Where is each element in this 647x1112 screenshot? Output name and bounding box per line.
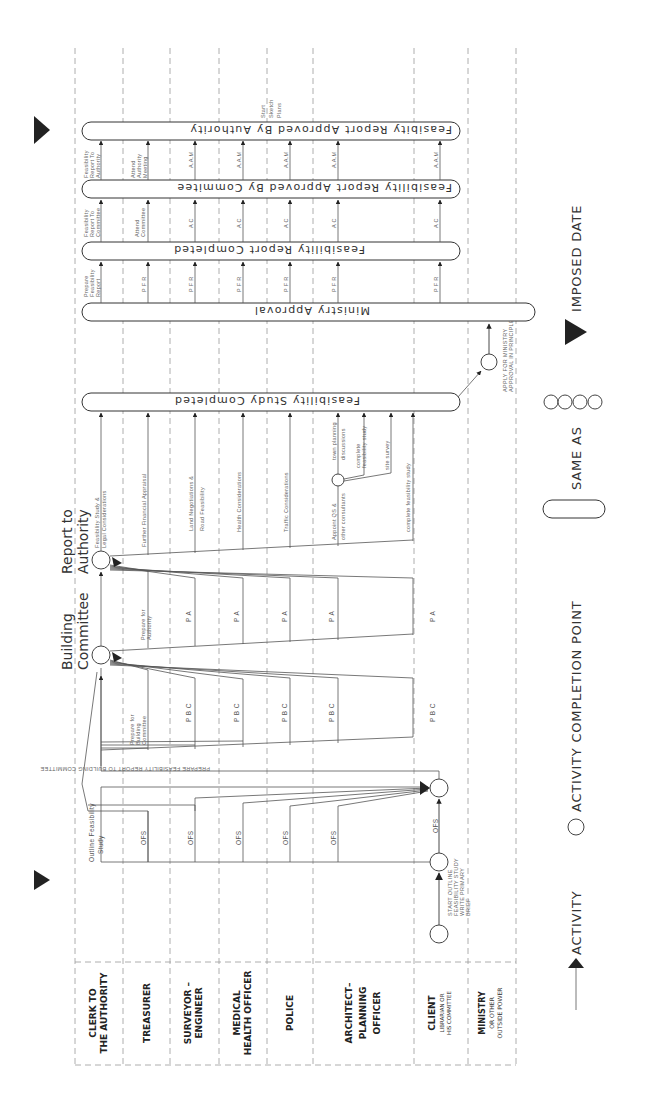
legend: ACTIVITY ACTIVITY COMPLETION POINT SAME … bbox=[543, 205, 605, 1010]
svg-text:Appoint QS &: Appoint QS & bbox=[331, 503, 337, 540]
svg-text:MINISTRY: MINISTRY bbox=[478, 991, 487, 1035]
svg-text:OFS: OFS bbox=[235, 830, 242, 845]
svg-text:BRIEF: BRIEF bbox=[465, 898, 471, 916]
svg-text:Report to: Report to bbox=[59, 509, 75, 574]
svg-text:A.A.M: A.A.M bbox=[433, 151, 439, 168]
svg-text:Traffic Considerations: Traffic Considerations bbox=[283, 472, 289, 532]
svg-text:POLICE: POLICE bbox=[285, 995, 295, 1031]
svg-text:discussions: discussions bbox=[340, 428, 346, 460]
svg-text:Study: Study bbox=[97, 835, 105, 854]
outline-start-node bbox=[430, 853, 448, 871]
lane-header-ministry: MINISTRY OR OTHER OUTSIDE POWER bbox=[478, 988, 503, 1039]
svg-text:Committee: Committee bbox=[140, 208, 146, 237]
lane-header-police: POLICE bbox=[285, 995, 295, 1031]
svg-text:P F R: P F R bbox=[236, 277, 242, 292]
svg-text:OFS: OFS bbox=[187, 830, 194, 845]
same-as-bar-icon bbox=[543, 500, 605, 518]
svg-text:Start: Start bbox=[260, 105, 266, 118]
svg-text:THE AUTHORITY: THE AUTHORITY bbox=[99, 972, 109, 1054]
svg-text:Feasibity Report Approved B: Feasibity Report Approved By Authority bbox=[189, 123, 452, 136]
svg-text:Ministry Approval: Ministry Approval bbox=[254, 304, 370, 317]
svg-text:town planning: town planning bbox=[331, 422, 337, 460]
svg-text:OR OTHER: OR OTHER bbox=[488, 997, 495, 1029]
lane-headers: CLERK TO THE AUTHORITY TREASURER SURVEYO… bbox=[88, 971, 503, 1056]
svg-text:SAME AS: SAME AS bbox=[569, 426, 584, 490]
lane-header-client: CLIENT LIBRARIAN OR HIS COMMITTEE bbox=[427, 991, 452, 1035]
svg-text:P A: P A bbox=[233, 611, 240, 622]
svg-text:P B C: P B C bbox=[185, 703, 192, 722]
svg-text:P F R: P F R bbox=[283, 277, 289, 292]
approved-by-committee-bar: Feasibility Report Approved By Commitee bbox=[82, 180, 460, 198]
imposed-date-marker-end bbox=[34, 116, 50, 144]
svg-text:A.A.M: A.A.M bbox=[283, 151, 289, 168]
svg-text:P B C: P B C bbox=[429, 703, 436, 722]
aam-activities: Feasibility Report To Authority Attend A… bbox=[83, 141, 440, 180]
imposed-date-icon bbox=[565, 319, 587, 345]
svg-text:P B C: P B C bbox=[328, 703, 335, 722]
svg-text:A C: A C bbox=[188, 218, 194, 228]
svg-text:OFS: OFS bbox=[140, 830, 147, 845]
svg-text:OUTSIDE POWER: OUTSIDE POWER bbox=[496, 988, 503, 1039]
svg-text:P A: P A bbox=[429, 611, 436, 622]
svg-text:Feasibility Study Complete: Feasibility Study Completed bbox=[174, 394, 360, 407]
svg-text:OFS: OFS bbox=[330, 830, 337, 845]
pa-activities: Prepare for Authority P A P A P A P A P … bbox=[110, 557, 436, 651]
same-as-circle-icon bbox=[544, 395, 558, 409]
start-node bbox=[430, 925, 448, 943]
lane-header-architect: ARCHITECT– PLANNING OFFICER bbox=[344, 982, 382, 1043]
svg-text:Plans: Plans bbox=[276, 103, 282, 118]
pfr-activities: Prepare Feasibility Report P F R P F R P… bbox=[83, 262, 440, 303]
svg-text:Land Negotiations &: Land Negotiations & bbox=[188, 476, 194, 531]
ofs-complete-node bbox=[430, 779, 448, 797]
imposed-date-marker-start bbox=[34, 870, 50, 890]
svg-text:site survey: site survey bbox=[384, 440, 390, 470]
svg-text:Authority: Authority bbox=[75, 509, 91, 574]
feasibility-report-completed-bar: Feasibility Report Completed bbox=[82, 242, 460, 260]
pbc-activities: Prepare for Building Committee P B C P B… bbox=[101, 652, 436, 750]
lane-header-treasurer: TREASURER bbox=[142, 983, 152, 1043]
svg-text:MEDICAL: MEDICAL bbox=[232, 990, 242, 1035]
svg-text:P B C: P B C bbox=[233, 703, 240, 722]
svg-text:Report: Report bbox=[95, 279, 101, 297]
svg-text:A C: A C bbox=[283, 218, 289, 228]
approved-by-authority-bar: Feasibity Report Approved By Authority bbox=[82, 122, 460, 140]
svg-text:Feasibility Study &: Feasibility Study & bbox=[94, 497, 100, 548]
svg-text:Legal Considerations: Legal Considerations bbox=[101, 490, 107, 548]
svg-text:HEALTH OFFICER: HEALTH OFFICER bbox=[243, 971, 253, 1056]
svg-text:ACTIVITY: ACTIVITY bbox=[569, 890, 584, 955]
ac-activities: Feasibility Report To Committee Attend C… bbox=[83, 200, 440, 242]
svg-text:OFS: OFS bbox=[282, 830, 289, 845]
svg-text:SURVEYOR –: SURVEYOR – bbox=[183, 981, 193, 1044]
svg-text:Outline Feasibility: Outline Feasibility bbox=[88, 803, 96, 862]
svg-text:P A: P A bbox=[328, 611, 335, 622]
svg-text:ENGINEER: ENGINEER bbox=[194, 987, 204, 1038]
svg-text:Building: Building bbox=[59, 613, 75, 670]
svg-text:LIBRARIAN OR: LIBRARIAN OR bbox=[439, 993, 445, 1032]
svg-text:PLANNING: PLANNING bbox=[358, 987, 368, 1040]
svg-text:Feasibility Report Approved: Feasibility Report Approved By Commitee bbox=[176, 181, 452, 194]
lane-header-surveyor: SURVEYOR – ENGINEER bbox=[183, 981, 204, 1044]
start-sketch-plans-note: Start Sketch Plans bbox=[260, 99, 282, 118]
svg-text:P B C: P B C bbox=[281, 703, 288, 722]
svg-text:PREPARE FEASIBILITY REPORT: PREPARE FEASIBILITY REPORT TO BUILDING C… bbox=[40, 766, 210, 772]
svg-text:A C: A C bbox=[331, 218, 337, 228]
svg-text:IMPOSED DATE: IMPOSED DATE bbox=[569, 205, 584, 312]
activity-arrow-icon bbox=[568, 958, 584, 968]
svg-text:ACTIVITY COMPLETION POINT: ACTIVITY COMPLETION POINT bbox=[569, 600, 584, 812]
svg-text:A.A.M: A.A.M bbox=[188, 151, 194, 168]
svg-text:Committee: Committee bbox=[141, 716, 147, 745]
svg-text:Meeting: Meeting bbox=[142, 156, 148, 178]
svg-text:ARCHITECT–: ARCHITECT– bbox=[344, 982, 354, 1043]
svg-text:TREASURER: TREASURER bbox=[142, 983, 152, 1043]
lane-header-clerk: CLERK TO THE AUTHORITY bbox=[88, 972, 109, 1054]
svg-text:Committee: Committee bbox=[95, 208, 101, 237]
svg-text:CLERK TO: CLERK TO bbox=[88, 988, 98, 1038]
svg-text:Feasibility Report Compl: Feasibility Report Completed bbox=[173, 243, 365, 256]
svg-text:P F R: P F R bbox=[188, 277, 194, 292]
svg-text:P F R: P F R bbox=[331, 277, 337, 292]
svg-text:Further Financial Appraisal: Further Financial Appraisal bbox=[141, 473, 147, 547]
lane-header-medical: MEDICAL HEALTH OFFICER bbox=[232, 971, 253, 1056]
svg-text:Road Feasibility: Road Feasibility bbox=[199, 487, 205, 531]
critical-path-diagram: CLERK TO THE AUTHORITY TREASURER SURVEYO… bbox=[0, 0, 647, 1112]
feasibility-study-activities: Feasibility Study & Legal Considerations… bbox=[94, 413, 413, 556]
